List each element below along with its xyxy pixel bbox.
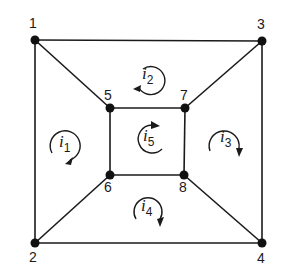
loop-i3-arrow-icon [236, 148, 243, 157]
loop-i1-label: i1 [59, 132, 71, 155]
loop-i1-arrow-icon [65, 157, 73, 165]
node-2 [31, 239, 40, 248]
node-label-6: 6 [104, 179, 112, 195]
edge-4-8 [184, 175, 262, 243]
circuit-graph: 1 2 3 4 5 6 7 8 i1 i2 i3 i4 [0, 0, 282, 280]
loop-i2: i2 [133, 64, 165, 95]
edge-7-8 [184, 108, 185, 175]
loop-i5-label: i5 [143, 126, 155, 149]
node-label-7: 7 [180, 87, 188, 103]
edge-1-3 [35, 40, 262, 41]
loop-i5-arrow-icon [151, 121, 160, 129]
edge-3-7 [185, 41, 262, 108]
loop-i4-arrow-icon [157, 217, 164, 227]
node-label-1: 1 [29, 15, 37, 31]
node-label-3: 3 [257, 16, 265, 32]
node-7 [181, 104, 190, 113]
node-5 [106, 104, 115, 113]
node-1 [31, 36, 40, 45]
node-3 [258, 37, 267, 46]
edge-1-5 [35, 40, 110, 108]
node-label-5: 5 [104, 87, 112, 103]
loop-i1: i1 [50, 131, 80, 165]
loop-i4-label: i4 [141, 196, 153, 219]
node-4 [258, 239, 267, 248]
loop-i5: i5 [138, 121, 162, 153]
node-label-8: 8 [179, 179, 187, 195]
node-label-4: 4 [257, 250, 265, 266]
loop-i4: i4 [134, 196, 164, 227]
node-label-2: 2 [29, 249, 37, 265]
loop-i3: i3 [209, 127, 243, 157]
loop-i2-arrow-icon [133, 85, 141, 92]
edge-2-6 [35, 175, 110, 243]
